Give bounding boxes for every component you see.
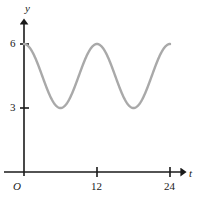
origin-label: O xyxy=(13,181,21,192)
y-tick-label-3: 3 xyxy=(10,102,16,113)
x-tick-label-12: 12 xyxy=(91,181,102,192)
sinusoid-curve xyxy=(24,44,170,108)
x-tick-label-24: 24 xyxy=(164,181,175,192)
t-axis-label: t xyxy=(189,168,192,179)
y-axis-label: y xyxy=(25,3,30,14)
sinusoid-graph-figure: 6 3 12 24 y t O xyxy=(0,0,200,203)
y-tick-label-6: 6 xyxy=(10,38,16,49)
plot-canvas xyxy=(0,0,200,203)
